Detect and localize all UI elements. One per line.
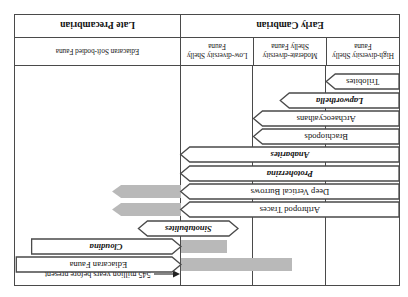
period-band-cell: Late Precambrian xyxy=(15,15,180,37)
period-band-row: Early CambrianLate Precambrian xyxy=(15,15,399,37)
range-bar[interactable]: Cloudina xyxy=(31,239,180,254)
period-band-cell: Early Cambrian xyxy=(180,15,399,37)
range-bar[interactable]: Trilobites xyxy=(326,74,399,89)
range-bar[interactable]: Sinotubulites xyxy=(139,221,239,236)
chart-frame: 545 million years before present Trilobi… xyxy=(14,14,400,286)
scanned-figure: 545 million years before present Trilobi… xyxy=(0,0,408,297)
range-bar-ghost xyxy=(112,203,181,216)
plot-area: 545 million years before present Trilobi… xyxy=(15,66,399,285)
fauna-band-cell: Low-diversity Shelly Fauna xyxy=(180,38,253,65)
range-bar[interactable]: Archaeocyathans xyxy=(253,111,399,126)
range-bar[interactable]: Protoherzina xyxy=(181,166,399,181)
range-bar[interactable]: Brachiopods xyxy=(253,129,399,144)
range-bar[interactable]: Deep Vertical Burrows xyxy=(181,184,399,199)
range-bar-ghost xyxy=(181,258,292,271)
range-bar-ghost xyxy=(181,240,227,253)
fauna-band-cell: High-diversity Shelly Fauna xyxy=(326,38,399,65)
range-bar[interactable]: Arthropod Traces xyxy=(181,202,399,217)
fauna-band-cell: Moderate-diversity Shelly Fauna xyxy=(253,38,326,65)
range-bar[interactable]: Lapworthella xyxy=(280,93,399,108)
range-bar[interactable]: Ediacaran Fauna xyxy=(16,257,181,272)
range-bar-ghost xyxy=(112,185,181,198)
fauna-band-row: High-diversity Shelly FaunaModerate-dive… xyxy=(15,37,399,66)
range-bar[interactable]: Anabarites xyxy=(181,148,399,163)
fauna-band-cell: Ediacaran Soft-bodied Fauna xyxy=(15,38,180,65)
